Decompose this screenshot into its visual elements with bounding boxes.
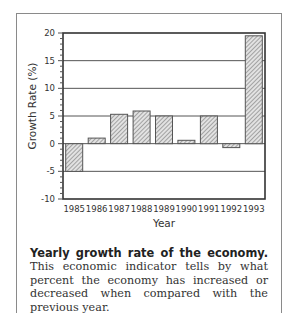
y-tick-label: 0 — [50, 139, 55, 149]
x-tick-label: 1986 — [86, 204, 108, 214]
y-tick-label: -5 — [47, 166, 55, 176]
bar-chart: -10-505101520 19851986198719881989199019… — [0, 0, 292, 240]
y-tick-label: 5 — [50, 111, 55, 121]
y-tick-label: 15 — [44, 56, 55, 66]
x-tick-label: 1991 — [198, 204, 220, 214]
bar-1991 — [200, 116, 217, 144]
x-tick-label: 1990 — [176, 204, 198, 214]
y-tick-labels: -10-505101520 — [41, 28, 55, 204]
x-tick-label: 1988 — [131, 204, 153, 214]
bar-1993 — [245, 36, 262, 144]
bar-1988 — [133, 111, 150, 144]
bar-1990 — [178, 140, 195, 143]
figure-caption: Yearly growth rate of the economy. This … — [30, 247, 268, 314]
x-tick-label: 1987 — [108, 204, 130, 214]
y-axis-label: Growth Rate (%) — [26, 63, 38, 150]
bar-1986 — [88, 138, 105, 144]
x-axis-label: Year — [152, 217, 176, 229]
bar-1992 — [223, 144, 240, 148]
y-tick-label: 10 — [44, 83, 55, 93]
y-tick-label: -10 — [41, 194, 55, 204]
x-tick-label: 1993 — [243, 204, 265, 214]
bar-1985 — [66, 144, 83, 172]
x-tick-label: 1992 — [221, 204, 243, 214]
y-tick-label: 20 — [44, 28, 55, 38]
x-tick-labels: 198519861987198819891990199119921993 — [63, 204, 264, 214]
x-tick-label: 1985 — [63, 204, 85, 214]
caption-text: This economic indicator tells by what pe… — [30, 260, 268, 313]
caption-title: Yearly growth rate of the economy. — [30, 246, 268, 260]
x-tick-label: 1989 — [153, 204, 175, 214]
bar-1987 — [111, 114, 128, 143]
bar-1989 — [156, 116, 173, 144]
bars — [66, 36, 263, 172]
